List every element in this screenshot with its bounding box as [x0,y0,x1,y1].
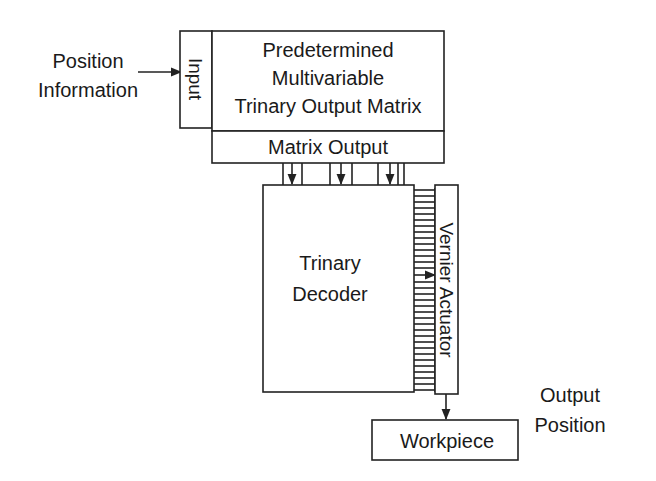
svg-text:Decoder: Decoder [292,283,368,305]
svg-text:Matrix Output: Matrix Output [268,136,388,158]
trinary-vernier-diagram: Position Information Input Predetermined… [0,0,656,481]
svg-text:Information: Information [38,79,138,101]
decoder-to-actuator-bus [414,188,435,392]
vernier-actuator-label: Vernier Actuator [436,222,457,358]
svg-text:Workpiece: Workpiece [400,430,494,452]
svg-text:Output: Output [540,384,600,406]
workpiece-block: Workpiece [372,420,518,460]
svg-text:Trinary Output Matrix: Trinary Output Matrix [234,95,421,117]
input-label: Input [185,58,206,101]
matrix-block: Predetermined Multivariable Trinary Outp… [212,31,444,131]
vernier-actuator-block: Vernier Actuator [435,185,458,394]
trinary-decoder-block: Trinary Decoder [263,185,414,392]
svg-text:Position: Position [534,414,605,436]
svg-text:Multivariable: Multivariable [272,67,384,89]
position-information-label: Position Information [38,50,138,101]
svg-text:Trinary: Trinary [299,252,360,274]
input-block: Input [180,31,212,128]
svg-text:Predetermined: Predetermined [262,39,393,61]
matrix-to-decoder-bus [283,163,404,185]
svg-text:Position: Position [52,50,123,72]
output-position-label: Output Position [534,384,605,436]
matrix-output-block: Matrix Output [212,131,444,163]
